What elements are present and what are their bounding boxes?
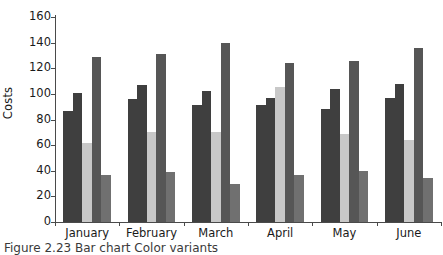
bar xyxy=(266,98,276,222)
bar xyxy=(294,175,304,222)
bar-group xyxy=(377,17,441,222)
bar xyxy=(414,48,424,222)
bar xyxy=(82,143,92,222)
bar xyxy=(385,98,395,222)
bar xyxy=(285,63,295,222)
bar xyxy=(330,89,340,222)
x-axis-category-label: March xyxy=(184,226,248,240)
bar xyxy=(192,105,202,222)
plot-area xyxy=(55,17,441,222)
bar xyxy=(92,57,102,222)
y-axis-tick-label: 80 xyxy=(11,113,51,126)
x-axis-category-label: January xyxy=(55,226,119,240)
x-axis-category-label: February xyxy=(119,226,183,240)
bar xyxy=(166,172,176,222)
bar xyxy=(63,111,73,222)
bar xyxy=(423,178,433,222)
figure-caption: Figure 2.23 Bar chart Color variants xyxy=(4,241,443,255)
bar xyxy=(101,175,111,222)
bar xyxy=(321,109,331,222)
bar xyxy=(73,93,83,222)
bar xyxy=(211,132,221,222)
bar xyxy=(404,140,414,222)
bar xyxy=(230,184,240,222)
x-axis-category-label: April xyxy=(248,226,312,240)
bar xyxy=(256,105,266,222)
bar xyxy=(359,171,369,222)
bar xyxy=(275,87,285,222)
bar-group xyxy=(248,17,312,222)
bar xyxy=(349,61,359,222)
bar-group xyxy=(55,17,119,222)
y-axis-tick-label: 60 xyxy=(11,138,51,151)
y-axis-tick-label: 140 xyxy=(11,36,51,49)
y-axis-tick-label: 40 xyxy=(11,164,51,177)
bar xyxy=(128,99,138,222)
x-axis-tick-mark xyxy=(441,222,442,226)
y-axis-tick-label: 100 xyxy=(11,87,51,100)
y-axis-tick-label: 160 xyxy=(11,10,51,23)
x-axis-category-label: June xyxy=(377,226,441,240)
bar-group xyxy=(119,17,183,222)
bar-group xyxy=(312,17,376,222)
bar xyxy=(137,85,147,222)
bar-group xyxy=(184,17,248,222)
y-axis-tick-label: 0 xyxy=(11,215,51,228)
y-axis-tick-label: 120 xyxy=(11,61,51,74)
y-axis-tick-label: 20 xyxy=(11,189,51,202)
bar xyxy=(395,84,405,222)
bar xyxy=(340,134,350,222)
bar xyxy=(156,54,166,222)
bar xyxy=(147,132,157,222)
bar xyxy=(202,91,212,222)
x-axis-category-label: May xyxy=(312,226,376,240)
bar xyxy=(221,43,231,222)
